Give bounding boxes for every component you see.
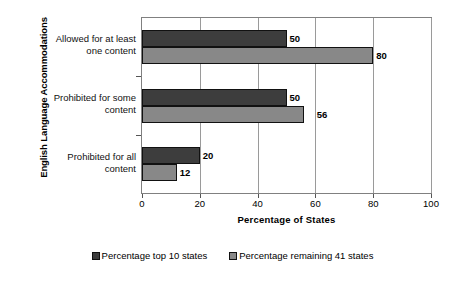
category-label-line: Prohibited for some: [28, 92, 136, 104]
category-label-prohibited-some-content: Prohibited for some content: [28, 92, 136, 116]
legend-label: Percentage remaining 41 states: [239, 250, 373, 261]
x-axis-tick-label: 100: [423, 198, 439, 209]
x-axis-ticks: 020406080100: [141, 194, 432, 210]
x-axis-tick-label: 40: [252, 198, 263, 209]
bar-remaining41[interactable]: [142, 106, 304, 123]
category-label-prohibited-all-content: Prohibited for all content: [28, 151, 136, 175]
category-label-allowed-at-least-one-content: Allowed for at least one content: [28, 33, 136, 57]
plot-area: 508050562012: [141, 17, 432, 194]
bar-value-label: 12: [180, 164, 191, 181]
legend-swatch-icon: [229, 252, 237, 260]
bar-value-label: 50: [290, 89, 301, 106]
x-axis-tick-label: 60: [310, 198, 321, 209]
y-axis-tick: [136, 76, 141, 77]
x-axis-title: Percentage of States: [141, 214, 432, 225]
legend-swatch-icon: [92, 252, 100, 260]
bar-top10[interactable]: [142, 147, 200, 164]
category-label-line: Prohibited for all: [28, 151, 136, 163]
category-label-line: Allowed for at least: [28, 33, 136, 45]
bar-remaining41[interactable]: [142, 164, 177, 181]
x-axis-tick-label: 20: [195, 198, 206, 209]
bar-remaining41[interactable]: [142, 47, 373, 64]
y-axis-tick: [136, 135, 141, 136]
category-label-group: Allowed for at least one content Prohibi…: [28, 17, 136, 194]
bar-value-label: 56: [317, 106, 328, 123]
x-axis-tick-label: 0: [139, 198, 144, 209]
gridline: [373, 18, 374, 193]
bar-top10[interactable]: [142, 30, 287, 47]
legend-item[interactable]: Percentage top 10 states: [92, 250, 208, 261]
category-label-line: content: [28, 104, 136, 116]
category-label-line: one content: [28, 45, 136, 57]
bar-value-label: 50: [290, 30, 301, 47]
bar-top10[interactable]: [142, 89, 287, 106]
x-axis-tick-label: 80: [368, 198, 379, 209]
gridline: [431, 18, 432, 193]
bar-chart: English Language Accommodations Allowed …: [0, 0, 465, 281]
legend-label: Percentage top 10 states: [102, 250, 208, 261]
bar-value-label: 20: [203, 147, 214, 164]
bar-value-label: 80: [376, 47, 387, 64]
category-label-line: content: [28, 163, 136, 175]
chart-legend: Percentage top 10 statesPercentage remai…: [0, 250, 465, 261]
legend-item[interactable]: Percentage remaining 41 states: [229, 250, 373, 261]
